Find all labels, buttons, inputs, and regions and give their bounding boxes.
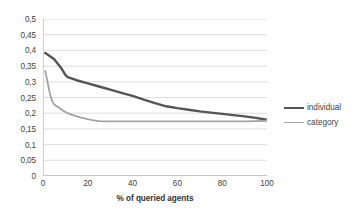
- y-tick-label: 0,15: [20, 124, 36, 133]
- x-tick-label: 40: [128, 179, 137, 188]
- y-tick-label: 0,5: [25, 15, 36, 24]
- legend-label-individual: individual: [307, 103, 341, 112]
- legend-item-category: category: [284, 115, 356, 130]
- series-line-category: [45, 71, 267, 122]
- chart-legend: individual category: [284, 100, 356, 130]
- x-axis: 020406080100: [43, 179, 267, 191]
- plot-svg: [43, 19, 267, 176]
- x-tick-label: 20: [83, 179, 92, 188]
- x-tick-label: 0: [41, 179, 46, 188]
- legend-item-individual: individual: [284, 100, 356, 115]
- series-line-individual: [45, 53, 267, 120]
- x-tick-label: 60: [173, 179, 182, 188]
- y-tick-label: 0,45: [20, 30, 36, 39]
- x-tick-label: 100: [260, 179, 274, 188]
- gridlines: [43, 19, 267, 176]
- y-tick-label: 0,05: [20, 156, 36, 165]
- legend-swatch-category: [284, 122, 304, 123]
- legend-swatch-individual: [284, 107, 304, 109]
- plot-area: [43, 19, 267, 176]
- x-axis-title: % of queried agents: [43, 194, 267, 203]
- line-chart: 00,050,10,150,20,250,30,350,40,450,5 020…: [0, 0, 356, 219]
- legend-label-category: category: [307, 118, 338, 127]
- y-tick-label: 0,25: [20, 93, 36, 102]
- series-paths: [45, 53, 267, 121]
- y-tick-label: 0,1: [25, 140, 36, 149]
- y-tick-label: 0,35: [20, 62, 36, 71]
- y-tick-label: 0,2: [25, 109, 36, 118]
- y-axis: 00,050,10,150,20,250,30,350,40,450,5: [0, 19, 40, 176]
- y-tick-label: 0: [32, 172, 36, 181]
- y-tick-label: 0,4: [25, 46, 36, 55]
- y-tick-label: 0,3: [25, 77, 36, 86]
- x-tick-label: 80: [218, 179, 227, 188]
